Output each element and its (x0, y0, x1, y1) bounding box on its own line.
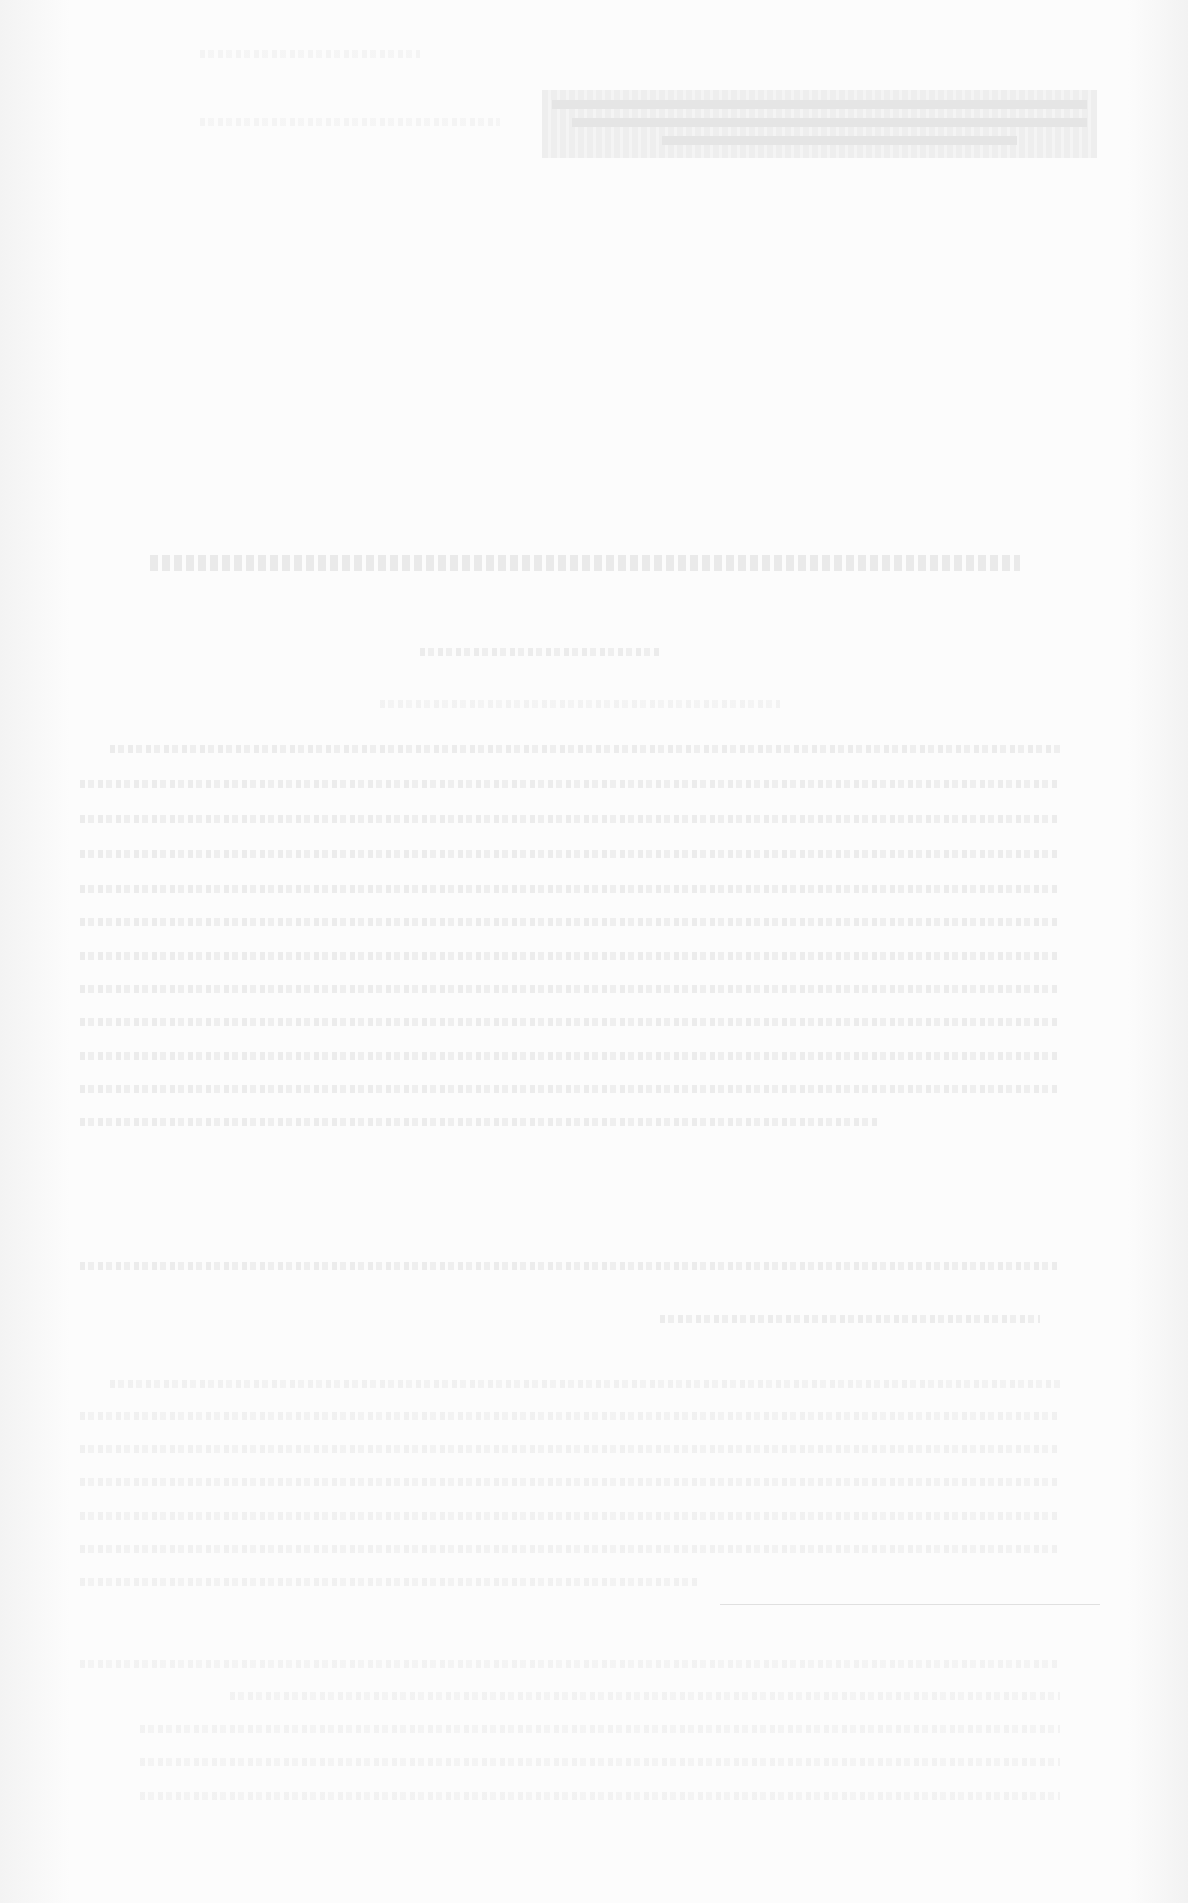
document-page (0, 0, 1188, 1903)
text-line (80, 1512, 1060, 1520)
title-line (150, 555, 1020, 571)
subtitle-line (420, 648, 660, 656)
text-line (80, 1085, 1060, 1093)
text-line (80, 1578, 700, 1586)
text-line (80, 885, 1060, 893)
text-line (80, 780, 1060, 788)
text-line (200, 50, 420, 58)
text-line (80, 918, 1060, 926)
text-line (80, 1262, 1060, 1270)
text-line (140, 1758, 1060, 1766)
text-line (80, 1478, 1060, 1486)
text-line (80, 1118, 880, 1126)
text-line (230, 1692, 1060, 1700)
text-line (80, 1660, 1060, 1668)
text-line (80, 1412, 1060, 1420)
text-line (80, 1445, 1060, 1453)
text-line (110, 745, 1060, 753)
header-line (572, 118, 1087, 127)
text-line (80, 985, 1060, 993)
text-line (200, 118, 500, 126)
text-line (80, 1052, 1060, 1060)
text-line (140, 1792, 1060, 1800)
text-line (80, 1545, 1060, 1553)
page-edge-shadow-right (1128, 0, 1188, 1903)
text-line (380, 700, 780, 708)
header-block (542, 90, 1097, 158)
text-line (80, 1018, 1060, 1026)
text-line (140, 1725, 1060, 1733)
header-line (662, 136, 1017, 145)
text-line (80, 850, 1060, 858)
text-line (110, 1380, 1060, 1388)
text-line (660, 1315, 1040, 1323)
text-line (80, 815, 1060, 823)
horizontal-rule (720, 1604, 1100, 1605)
page-edge-shadow-left (0, 0, 70, 1903)
text-line (80, 952, 1060, 960)
header-line (552, 100, 1087, 109)
